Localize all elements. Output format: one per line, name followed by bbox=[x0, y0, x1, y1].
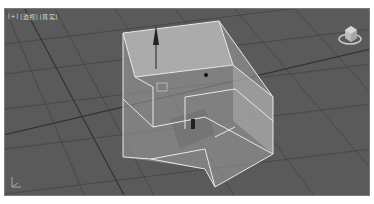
axis-tripod-icon bbox=[8, 173, 26, 191]
pivot-point bbox=[204, 73, 208, 77]
perspective-viewport[interactable]: [+] [透视] [真实] bbox=[4, 8, 370, 196]
viewport-label-menu[interactable]: [+] [透视] [真实] bbox=[8, 12, 57, 21]
selected-object[interactable] bbox=[123, 21, 273, 187]
viewport-shading-menu[interactable]: [真实] bbox=[40, 12, 57, 21]
dark-mark bbox=[191, 119, 195, 129]
viewcube-icon[interactable] bbox=[337, 21, 363, 47]
viewport-scene[interactable] bbox=[5, 9, 370, 196]
viewport-plus-menu[interactable]: [+] bbox=[8, 12, 18, 21]
viewport-view-menu[interactable]: [透视] bbox=[20, 12, 37, 21]
